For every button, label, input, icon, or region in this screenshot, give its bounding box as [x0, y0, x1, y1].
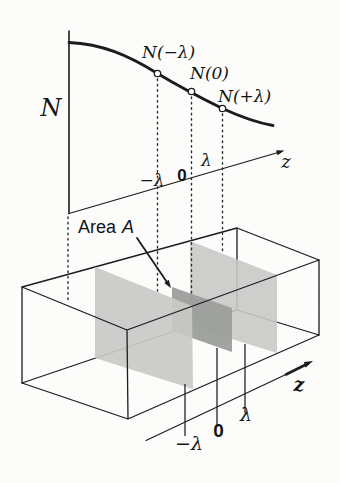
box-z-axis-label: z — [293, 373, 306, 395]
box-tick-minus-lambda: −λ — [175, 432, 203, 454]
curve-label-n-zero: N(0) — [189, 63, 229, 83]
curve-label-n-minus-lambda: N(−λ) — [141, 42, 195, 62]
curve-point-plus-lambda — [219, 105, 225, 111]
curve-label-n-plus-lambda: N(+λ) — [217, 86, 271, 106]
graph-tick-zero: 0 — [177, 166, 186, 185]
box-tick-plus-lambda: λ — [239, 403, 252, 425]
figure-page: N(−λ) N(0) N(+λ) N z −λ 0 λ AreaA z — [0, 0, 340, 483]
area-a-label: AreaA — [78, 217, 134, 237]
graph-tick-plus-lambda: λ — [200, 150, 212, 170]
area-a-label-symbol: A — [121, 217, 134, 237]
box-tick-zero: 0 — [213, 420, 224, 441]
graph-z-axis-label: z — [280, 151, 291, 172]
curve-point-minus-lambda — [154, 70, 160, 76]
figure-background — [0, 0, 340, 483]
mean-free-path-diagram: N(−λ) N(0) N(+λ) N z −λ 0 λ AreaA z — [0, 0, 340, 483]
area-a-label-word: Area — [78, 217, 117, 237]
graph-tick-minus-lambda: −λ — [139, 170, 164, 190]
graph-y-axis-label: N — [40, 94, 63, 122]
curve-point-zero — [188, 88, 194, 94]
